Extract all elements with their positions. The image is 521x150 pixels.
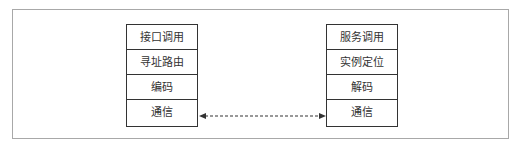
layer-service-call: 服务调用	[327, 25, 397, 50]
server-protocol-stack: 服务调用 实例定位 解码 通信	[326, 24, 398, 127]
layer-decoding: 解码	[327, 75, 397, 100]
layer-interface-call: 接口调用	[127, 25, 197, 50]
client-protocol-stack: 接口调用 寻址路由 编码 通信	[126, 24, 198, 127]
layer-encoding: 编码	[127, 75, 197, 100]
layer-instance-location: 实例定位	[327, 50, 397, 75]
layer-communication: 通信	[127, 100, 197, 126]
layer-communication: 通信	[327, 100, 397, 126]
bidirectional-dashed-arrow-icon	[199, 110, 326, 122]
layer-addressing-routing: 寻址路由	[127, 50, 197, 75]
